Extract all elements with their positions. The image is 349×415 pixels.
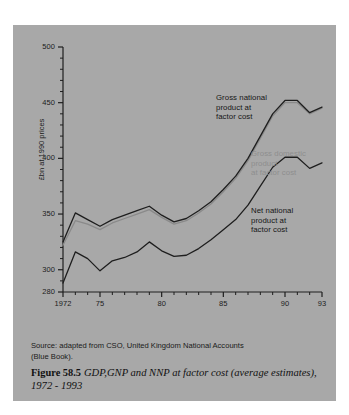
y-axis-minor-ticks	[60, 58, 63, 281]
y-tick-label: 300	[21, 266, 55, 274]
x-tick-label: 1972	[49, 300, 77, 308]
y-tick-label: 350	[21, 210, 55, 218]
x-tick-label: 80	[148, 300, 176, 308]
figure-number: Figure 58.5	[31, 367, 81, 378]
data-series-group	[63, 100, 322, 283]
x-tick-label: 75	[86, 300, 114, 308]
y-axis-title: £bn at 1990 prices	[37, 95, 46, 205]
y-tick-label: 500	[21, 43, 55, 51]
x-tick-label: 85	[209, 300, 237, 308]
series-label-gnp: Gross national product at factor cost	[216, 93, 267, 122]
figure-panel: 500450400350300280 19727580859093 £bn at…	[13, 25, 336, 401]
caption-block: Source: adapted from CSO, United Kingdom…	[31, 341, 323, 392]
figure-page: 500450400350300280 19727580859093 £bn at…	[0, 0, 349, 415]
series-label-gdp: Gross domestic product at factor cost	[251, 149, 306, 178]
x-tick-label: 93	[308, 300, 336, 308]
x-tick-label: 90	[271, 300, 299, 308]
series-label-nnp: Net national product at factor cost	[251, 206, 293, 235]
chart-plot-area: 500450400350300280 19727580859093 £bn at…	[13, 25, 336, 330]
source-note: Source: adapted from CSO, United Kingdom…	[31, 341, 323, 362]
x-axis-major-ticks	[63, 292, 322, 297]
y-tick-label: 280	[21, 288, 55, 296]
figure-caption: Figure 58.5 GDP,GNP and NNP at factor co…	[31, 367, 323, 392]
